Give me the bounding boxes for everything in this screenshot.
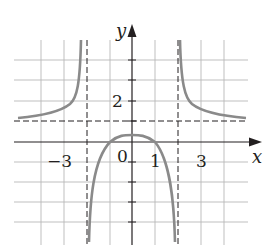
x-tick-label-neg3: −3 <box>47 151 72 171</box>
y-axis-label: y <box>115 20 127 41</box>
graph: y x −3 0 1 3 2 <box>0 0 268 249</box>
y-tick-label-2: 2 <box>112 91 123 111</box>
x-tick-label-3: 3 <box>196 151 207 171</box>
y-axis-arrow-icon <box>128 24 137 37</box>
curve-left-branch <box>18 40 81 118</box>
axes <box>14 32 252 245</box>
x-tick-label-0: 0 <box>117 146 128 166</box>
x-axis-label: x <box>252 146 262 167</box>
x-tick-label-1: 1 <box>150 151 161 171</box>
curve-right-branch <box>180 40 246 118</box>
